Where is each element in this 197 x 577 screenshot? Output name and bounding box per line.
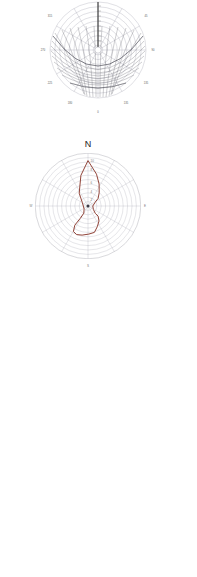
azimuth-label-180: 180 [68,101,73,105]
azimuth-label-0: 0 [97,110,99,114]
azimuth-label-315: 315 [48,14,53,18]
azimuth-label-45: 45 [145,14,148,18]
r-tick-8: 8 [91,168,93,172]
azimuth-label-270: 270 [41,48,46,52]
azimuth-label-225: 225 [48,81,53,85]
west-label: W [30,204,33,208]
azimuth-label-90: 90 [152,48,155,52]
azimuth-label-135b: 135 [124,101,129,105]
wind-rose-series [73,161,99,236]
sky-coverage-figure: 315 45 270 90 225 135 180 135 0 [0,0,197,130]
origin-marker [87,205,90,208]
zenith-marker [95,47,101,53]
wind-rose-svg: N [0,130,197,290]
south-label: S [87,264,89,268]
pole-axis [98,2,101,48]
r-tick-10: 10 [91,159,95,163]
sky-coverage-svg: 315 45 270 90 225 135 180 135 0 [0,0,197,130]
wind-rose-figure: N [0,130,197,290]
north-label: N [85,139,92,149]
blank-canvas-area [0,290,197,577]
azimuth-label-135: 135 [144,81,149,85]
east-label: E [144,204,146,208]
